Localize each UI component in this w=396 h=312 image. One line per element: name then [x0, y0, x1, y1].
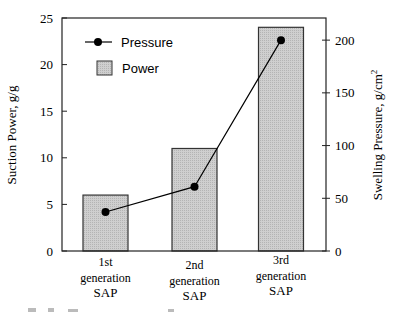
right-tick-label: 0 [335, 244, 342, 259]
legend-power-label: Power [122, 61, 160, 76]
category-label-line: 2nd [186, 258, 204, 272]
legend-pressure-label: Pressure [121, 35, 173, 50]
left-tick-label: 15 [40, 104, 53, 119]
left-tick-label: 0 [47, 244, 54, 259]
power-bars [83, 27, 304, 251]
category-label-line: SAP [94, 285, 118, 300]
pressure-marker [277, 36, 285, 44]
power-bar [83, 195, 128, 251]
category-label-line: generation [169, 274, 220, 288]
right-y-axis: 050100150200 [322, 33, 355, 259]
legend-power-swatch-icon [97, 61, 112, 75]
legend: Pressure Power [85, 35, 173, 76]
power-bar [259, 27, 304, 251]
left-axis-title: Suction Power, g/g [4, 85, 19, 184]
combo-chart: 0510152025 050100150200 1stgenerationSAP… [0, 0, 396, 312]
legend-pressure-marker-icon [94, 38, 102, 46]
category-label-line: SAP [269, 283, 293, 298]
left-tick-label: 5 [47, 197, 54, 212]
pressure-marker [191, 183, 199, 191]
right-tick-label: 50 [335, 191, 348, 206]
caption-cutoff [28, 308, 174, 312]
category-label-line: 1st [98, 255, 113, 269]
power-bar [172, 148, 217, 251]
right-axis-title: Swelling Pressure, g/cm2 [369, 70, 385, 201]
pressure-marker [102, 208, 110, 216]
category-label-line: SAP [183, 288, 207, 303]
left-tick-label: 20 [40, 57, 53, 72]
right-tick-label: 200 [335, 33, 355, 48]
left-tick-label: 25 [40, 11, 53, 26]
category-label-line: generation [80, 271, 131, 285]
category-label-line: generation [256, 269, 307, 283]
left-y-axis: 0510152025 [40, 11, 67, 259]
right-tick-label: 100 [335, 138, 355, 153]
category-label-line: 3rd [273, 253, 289, 267]
right-tick-label: 150 [335, 85, 355, 100]
x-axis-category-labels: 1stgenerationSAP2ndgenerationSAP3rdgener… [80, 253, 306, 303]
left-tick-label: 10 [40, 150, 53, 165]
